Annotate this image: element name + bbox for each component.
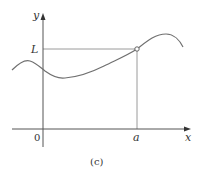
y-axis-label: y	[32, 9, 40, 22]
limit-diagram: y L 0 a x (c)	[0, 0, 200, 183]
open-point-marker	[135, 47, 139, 51]
a-label: a	[133, 131, 140, 144]
L-label: L	[30, 43, 38, 56]
x-axis-label: x	[185, 131, 192, 144]
y-axis-arrow-icon	[41, 13, 46, 20]
function-curve	[12, 34, 183, 78]
figure-caption: (c)	[90, 156, 104, 167]
origin-label: 0	[34, 132, 40, 143]
